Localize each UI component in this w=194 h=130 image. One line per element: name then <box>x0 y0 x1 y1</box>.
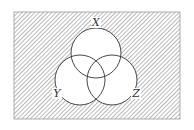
set-x-label: X <box>91 16 101 29</box>
set-z-label: Z <box>131 87 140 100</box>
venn-diagram: X Y Z <box>0 0 194 130</box>
